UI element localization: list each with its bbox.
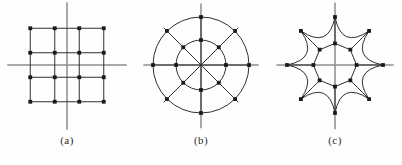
mesh-node — [181, 81, 185, 85]
mesh-node — [77, 75, 81, 79]
mesh-node — [247, 63, 251, 67]
mesh-node — [102, 26, 106, 30]
mesh-node — [348, 48, 352, 52]
mesh-node — [199, 88, 203, 92]
mesh-node — [53, 100, 57, 104]
mesh-node — [333, 42, 337, 46]
mesh-node — [28, 51, 32, 55]
mesh-node — [77, 51, 81, 55]
mesh-node — [348, 78, 352, 82]
mesh-node — [367, 29, 371, 33]
inner-octagon-edge — [350, 50, 356, 65]
mesh-node — [174, 63, 178, 67]
mesh-node — [53, 51, 57, 55]
mesh-node — [333, 85, 337, 89]
figure-a: (a) — [0, 0, 134, 165]
mesh-node — [199, 111, 203, 115]
outer-concave-arc — [362, 65, 383, 99]
mesh-node — [53, 26, 57, 30]
figure-b-caption: (b) — [134, 133, 268, 147]
figure-c: (c) — [268, 0, 402, 165]
inner-octagon-edge — [313, 65, 319, 80]
mesh-node — [318, 48, 322, 52]
inner-octagon-edge — [350, 65, 356, 80]
mesh-node — [28, 26, 32, 30]
outer-concave-arc — [335, 92, 369, 113]
figure-panel: (a) (b) (c) — [0, 0, 402, 165]
inner-octagon-edge — [320, 80, 335, 86]
inner-octagon-edge — [313, 50, 319, 65]
mesh-node — [299, 97, 303, 101]
inner-octagon-edge — [335, 80, 350, 86]
mesh-node — [28, 75, 32, 79]
mesh-node — [355, 63, 359, 67]
mesh-node — [181, 45, 185, 49]
mesh-node — [224, 63, 228, 67]
polar-grid-diagram — [134, 0, 268, 140]
mesh-node — [165, 97, 169, 101]
mesh-node — [217, 45, 221, 49]
figure-a-caption: (a) — [0, 133, 134, 147]
figure-c-caption: (c) — [268, 133, 402, 147]
mesh-node — [53, 75, 57, 79]
mesh-node — [299, 29, 303, 33]
mesh-node — [367, 97, 371, 101]
radial-arc — [301, 31, 320, 50]
mesh-node — [102, 75, 106, 79]
radial-arc — [301, 80, 320, 99]
outer-concave-arc — [287, 65, 308, 99]
outer-concave-arc — [335, 17, 369, 38]
outer-concave-arc — [362, 31, 383, 65]
mesh-node — [333, 15, 337, 19]
outer-concave-arc — [301, 92, 335, 113]
radial-arc — [350, 31, 369, 50]
outer-concave-arc — [287, 31, 308, 65]
star-warped-grid-diagram — [268, 0, 402, 140]
mesh-node — [102, 100, 106, 104]
mesh-node — [102, 51, 106, 55]
mesh-node — [285, 63, 289, 67]
inner-octagon-edge — [335, 43, 350, 49]
mesh-node — [333, 111, 337, 115]
mesh-node — [233, 29, 237, 33]
mesh-node — [151, 63, 155, 67]
mesh-node — [165, 29, 169, 33]
mesh-node — [199, 15, 203, 19]
outer-concave-arc — [301, 17, 335, 38]
mesh-node — [318, 78, 322, 82]
mesh-node — [77, 100, 81, 104]
mesh-node — [77, 26, 81, 30]
mesh-node — [312, 63, 316, 67]
mesh-node — [217, 81, 221, 85]
mesh-node — [28, 100, 32, 104]
mesh-node — [199, 38, 203, 42]
inner-octagon-edge — [320, 43, 335, 49]
radial-arc — [350, 80, 369, 99]
mesh-node — [233, 97, 237, 101]
cartesian-grid-diagram — [0, 0, 134, 140]
mesh-node — [381, 63, 385, 67]
figure-b: (b) — [134, 0, 268, 165]
